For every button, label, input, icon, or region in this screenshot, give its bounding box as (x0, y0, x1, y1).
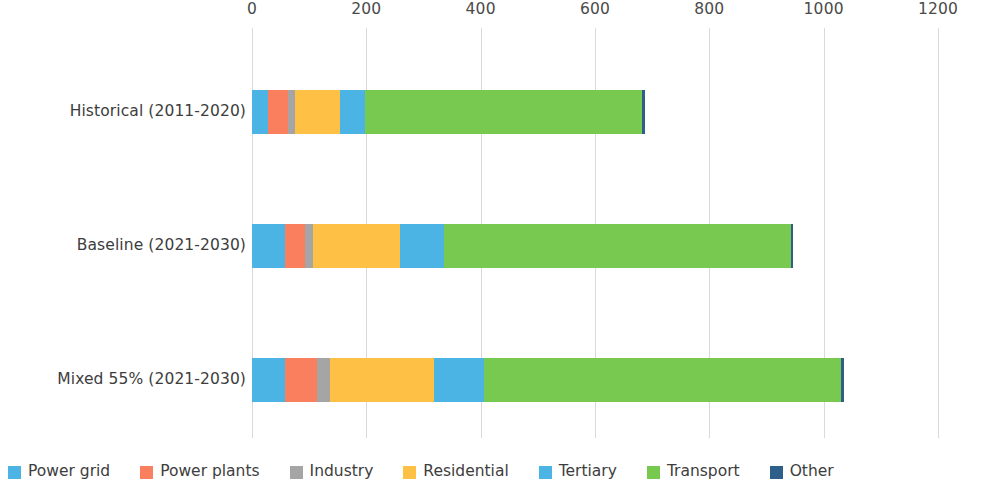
bar-segment-industry (317, 358, 330, 402)
category-label: Mixed 55% (2021-2030) (6, 370, 246, 388)
bar-segment-transport (444, 224, 790, 268)
x-tick-label: 1000 (804, 0, 844, 18)
legend-label: Industry (310, 464, 374, 480)
legend-item-other[interactable]: Other (770, 464, 834, 480)
x-tick-label: 0 (247, 0, 257, 18)
bar-segment-residential (295, 90, 340, 134)
bar-segment-power-plants (268, 90, 288, 134)
legend-swatch-icon (290, 466, 303, 479)
legend-swatch-icon (539, 466, 552, 479)
chart-legend: Power gridPower plantsIndustryResidentia… (8, 458, 983, 486)
bar-row (252, 224, 938, 268)
legend-swatch-icon (8, 466, 21, 479)
x-tick-label: 600 (580, 0, 610, 18)
bar-row (252, 90, 938, 134)
gridline-1200 (938, 28, 939, 438)
bar-segment-industry (305, 224, 313, 268)
bar-segment-other (791, 224, 793, 268)
plot-area: 020040060080010001200 (252, 28, 938, 438)
x-tick-label: 400 (466, 0, 496, 18)
stacked-bar-chart: Historical (2011-2020)Baseline (2021-203… (0, 0, 983, 491)
legend-swatch-icon (647, 466, 660, 479)
legend-label: Tertiary (559, 464, 617, 480)
legend-item-residential[interactable]: Residential (403, 464, 508, 480)
legend-label: Power grid (28, 464, 110, 480)
bar-segment-tertiary (400, 224, 444, 268)
x-tick-label: 1200 (918, 0, 958, 18)
legend-label: Transport (667, 464, 740, 480)
bar-segment-transport (365, 90, 642, 134)
bar-row (252, 358, 938, 402)
legend-swatch-icon (403, 466, 416, 479)
legend-swatch-icon (140, 466, 153, 479)
bar-segment-industry (288, 90, 295, 134)
category-label: Baseline (2021-2030) (6, 236, 246, 254)
x-tick-label: 800 (694, 0, 724, 18)
bar-segment-tertiary (340, 90, 365, 134)
bar-segment-power-plants (285, 358, 317, 402)
bar-segment-power-grid (252, 224, 285, 268)
bar-segment-residential (313, 224, 400, 268)
bar-segment-tertiary (434, 358, 483, 402)
bar-segment-power-grid (252, 90, 268, 134)
category-axis: Historical (2011-2020)Baseline (2021-203… (0, 28, 246, 438)
legend-item-industry[interactable]: Industry (290, 464, 374, 480)
bar-segment-other (642, 90, 645, 134)
legend-item-power-grid[interactable]: Power grid (8, 464, 110, 480)
category-label: Historical (2011-2020) (6, 102, 246, 120)
legend-item-transport[interactable]: Transport (647, 464, 740, 480)
legend-label: Residential (423, 464, 508, 480)
legend-item-power-plants[interactable]: Power plants (140, 464, 259, 480)
bar-segment-transport (484, 358, 841, 402)
bar-segment-residential (330, 358, 434, 402)
legend-label: Power plants (160, 464, 259, 480)
x-tick-label: 200 (351, 0, 381, 18)
legend-item-tertiary[interactable]: Tertiary (539, 464, 617, 480)
bar-segment-power-plants (285, 224, 305, 268)
bar-segment-power-grid (252, 358, 285, 402)
bar-segment-other (841, 358, 844, 402)
legend-label: Other (790, 464, 834, 480)
legend-swatch-icon (770, 466, 783, 479)
